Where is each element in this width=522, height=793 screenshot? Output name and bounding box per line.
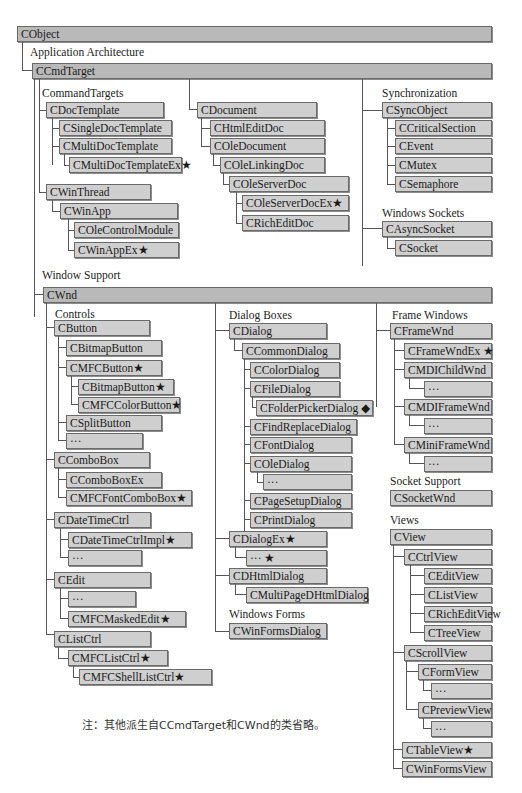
class-cdocument: CDocument bbox=[197, 102, 317, 118]
connector bbox=[410, 632, 424, 633]
connector bbox=[394, 339, 395, 444]
class-cformview: CFormView bbox=[418, 664, 492, 680]
class-cmutex: CMutex bbox=[395, 157, 492, 173]
class-cEditview: CEditView bbox=[424, 568, 492, 584]
class-ccombobox: CComboBox bbox=[54, 452, 150, 468]
class-cwnd: CWnd bbox=[43, 287, 492, 303]
class-chtmleditdoc: CHtmlEditDoc bbox=[210, 120, 325, 136]
connector bbox=[60, 557, 68, 558]
connector bbox=[68, 219, 69, 250]
class-cwinformsview: CWinFormsView bbox=[402, 761, 492, 777]
connector bbox=[234, 350, 242, 351]
class-cmfcbutton: CMFCButton★ bbox=[66, 360, 162, 376]
class-cmfcshelllistctrl: CMFCShellListCtrl★ bbox=[79, 669, 212, 685]
connector bbox=[235, 584, 236, 594]
connector bbox=[58, 422, 66, 423]
connector bbox=[244, 359, 245, 540]
connector bbox=[387, 146, 395, 147]
class-formview-more: ··· bbox=[431, 683, 492, 699]
connector bbox=[234, 339, 235, 350]
section-socket-support: Socket Support bbox=[390, 474, 461, 488]
connector bbox=[387, 165, 395, 166]
connector bbox=[58, 336, 59, 440]
connector bbox=[46, 579, 54, 580]
class-cdoctemplate: CDocTemplate bbox=[46, 102, 164, 118]
section-application-architecture: Application Architecture bbox=[30, 45, 144, 59]
class-cframewndex: CFrameWndEx ★ bbox=[404, 343, 492, 359]
class-mdichild-more: ··· bbox=[424, 381, 492, 397]
footnote: 注：其他派生自CCmdTarget和CWnd的类省略。 bbox=[82, 716, 325, 732]
class-ccomboboxex: CComboBoxEx bbox=[66, 472, 162, 488]
section-command-targets: CommandTargets bbox=[42, 86, 123, 100]
connector bbox=[58, 440, 66, 441]
class-previewview-more: ··· bbox=[431, 721, 492, 737]
class-cfolderpickerdialog: CFolderPickerDialog ◆ bbox=[256, 400, 373, 416]
class-cctrlview: CCtrlView bbox=[404, 549, 492, 565]
class-cwinappex: CWinAppEx★ bbox=[74, 242, 179, 258]
connector bbox=[406, 709, 418, 710]
mfc-class-hierarchy-diagram: CObject Application Architecture CCmdTar… bbox=[0, 0, 522, 793]
class-cwinthread: CWinThread bbox=[46, 184, 151, 200]
class-csocketwnd: CSocketWnd bbox=[390, 490, 492, 506]
class-csocket: CSocket bbox=[395, 240, 492, 256]
connector bbox=[235, 547, 236, 557]
connector bbox=[409, 388, 424, 389]
class-cdialog: CDialog bbox=[229, 323, 327, 339]
class-cbutton: CButton bbox=[54, 320, 150, 336]
class-csingledoctemplate: CSingleDocTemplate bbox=[59, 120, 172, 136]
connector bbox=[46, 634, 54, 635]
connector bbox=[46, 303, 47, 634]
class-cfiledialog: CFileDialog bbox=[250, 381, 340, 397]
connector bbox=[423, 680, 424, 690]
connector bbox=[71, 386, 78, 387]
connector bbox=[201, 118, 202, 146]
section-windows-sockets: Windows Sockets bbox=[382, 206, 464, 220]
connector bbox=[58, 468, 59, 497]
connector bbox=[257, 472, 258, 482]
class-cricheditdoc: CRichEditDoc bbox=[242, 215, 349, 231]
connector bbox=[52, 128, 59, 129]
class-colelinkingdoc: COleLinkingDoc bbox=[220, 157, 325, 173]
connector bbox=[223, 173, 224, 184]
connector bbox=[235, 594, 246, 595]
class-colecontrolmodule: COleControlModule bbox=[74, 222, 179, 238]
connector bbox=[39, 192, 46, 193]
class-ccolordialog: CColorDialog bbox=[250, 362, 340, 378]
class-cwinformsdialog: CWinFormsDialog bbox=[229, 623, 327, 639]
class-cdhtmldialog: CDHtmlDialog bbox=[229, 568, 327, 584]
connector bbox=[394, 406, 404, 407]
class-ccriticalsection: CCriticalSection bbox=[395, 120, 492, 136]
connector bbox=[22, 70, 32, 71]
connector bbox=[60, 588, 61, 618]
connector bbox=[201, 146, 210, 147]
connector bbox=[58, 647, 59, 658]
connector bbox=[60, 598, 68, 599]
class-cricheditview: CRichEditView bbox=[424, 606, 492, 622]
connector bbox=[213, 154, 214, 165]
class-datetime-more: ··· bbox=[68, 550, 142, 566]
class-coledocument: COleDocument bbox=[210, 138, 325, 154]
connector bbox=[39, 110, 46, 111]
connector bbox=[22, 42, 23, 70]
class-cmdiframewnd: CMDIFrameWnd bbox=[404, 399, 492, 415]
connector bbox=[387, 184, 395, 185]
connector bbox=[34, 79, 35, 317]
connector bbox=[393, 652, 404, 653]
connector bbox=[410, 613, 424, 614]
connector bbox=[64, 154, 65, 165]
connector bbox=[387, 128, 395, 129]
connector bbox=[423, 728, 431, 729]
connector bbox=[52, 146, 59, 147]
class-csemaphore: CSemaphore bbox=[395, 176, 492, 192]
connector bbox=[409, 463, 424, 464]
connector bbox=[71, 404, 78, 405]
connector bbox=[387, 237, 388, 248]
connector bbox=[60, 618, 68, 619]
class-csyncobject: CSyncObject bbox=[382, 102, 492, 118]
section-window-support: Window Support bbox=[42, 268, 120, 282]
class-cdatetimectrl: CDateTimeCtrl bbox=[54, 512, 151, 528]
connector bbox=[215, 303, 216, 631]
section-views: Views bbox=[390, 513, 419, 527]
connector bbox=[58, 367, 66, 368]
class-csplitbutton: CSplitButton bbox=[66, 415, 162, 431]
